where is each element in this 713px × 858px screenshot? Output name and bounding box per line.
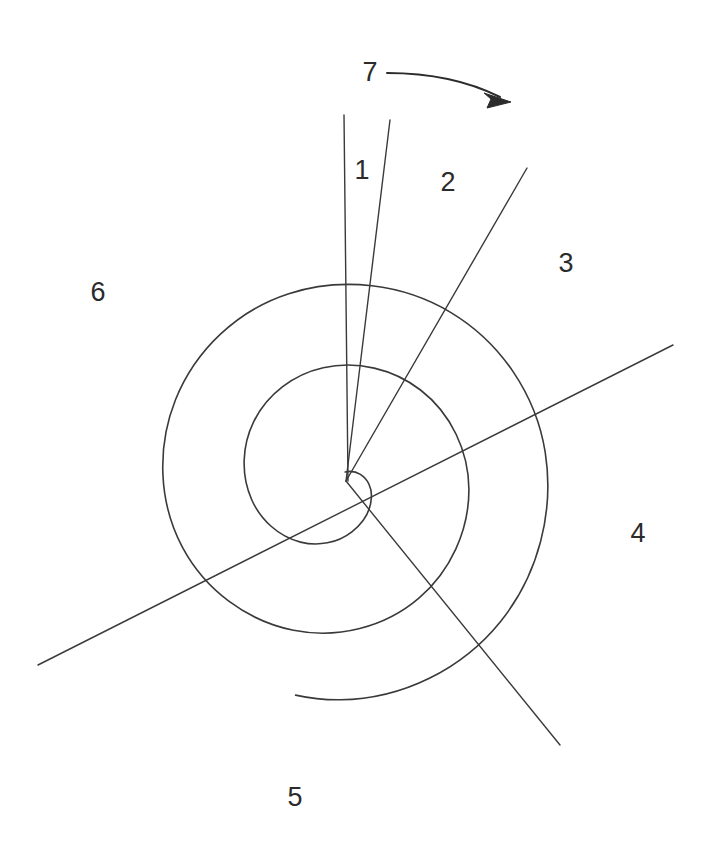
radial-line-4 xyxy=(38,345,673,665)
spiral-diagram: 1 2 3 4 5 6 7 xyxy=(0,0,713,858)
radial-lines-group xyxy=(38,115,673,745)
radial-line-5 xyxy=(346,481,560,745)
sector-label-6: 6 xyxy=(90,279,105,306)
sector-label-3: 3 xyxy=(558,250,573,277)
radial-line-1 xyxy=(344,115,348,481)
sector-label-4: 4 xyxy=(630,520,645,547)
rotation-direction-arrow-shaft xyxy=(387,73,500,97)
radial-line-3 xyxy=(346,168,527,481)
sector-label-1: 1 xyxy=(354,157,369,184)
sector-label-5: 5 xyxy=(287,784,302,811)
spiral-diagram-canvas xyxy=(0,0,713,858)
sector-label-2: 2 xyxy=(440,169,455,196)
rotation-arrow-label-7: 7 xyxy=(362,59,377,86)
